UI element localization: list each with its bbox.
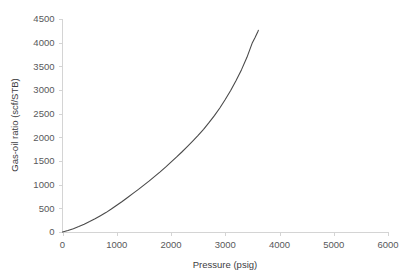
x-tick-label: 4000 bbox=[269, 239, 290, 250]
x-tick-label: 3000 bbox=[215, 239, 236, 250]
y-tick-label: 2000 bbox=[33, 132, 54, 143]
x-tick-label: 6000 bbox=[377, 239, 398, 250]
y-tick-label: 2500 bbox=[33, 108, 54, 119]
y-tick-label: 3000 bbox=[33, 84, 54, 95]
chart-container: 050010001500200025003000350040004500 010… bbox=[0, 0, 412, 279]
chart-plot-area: 050010001500200025003000350040004500 010… bbox=[0, 0, 412, 279]
series-line-gas-oil-ratio bbox=[63, 30, 259, 232]
x-tick-label: 0 bbox=[60, 239, 65, 250]
y-tick-label: 500 bbox=[39, 203, 55, 214]
y-axis-tick-labels: 050010001500200025003000350040004500 bbox=[33, 13, 54, 237]
x-tick-label: 1000 bbox=[106, 239, 127, 250]
y-tick-label: 0 bbox=[49, 226, 54, 237]
y-tick-label: 4000 bbox=[33, 37, 54, 48]
y-tick-label: 1000 bbox=[33, 179, 54, 190]
x-axis-title: Pressure (psig) bbox=[193, 259, 257, 270]
y-axis-title: Gas-oil ratio (scf/STB) bbox=[9, 78, 20, 171]
x-tick-label: 2000 bbox=[160, 239, 181, 250]
y-tick-label: 4500 bbox=[33, 13, 54, 24]
y-tick-label: 1500 bbox=[33, 155, 54, 166]
y-axis-ticks bbox=[59, 20, 63, 233]
y-tick-label: 3500 bbox=[33, 61, 54, 72]
x-axis-tick-labels: 0100020003000400050006000 bbox=[60, 239, 399, 250]
x-tick-label: 5000 bbox=[323, 239, 344, 250]
